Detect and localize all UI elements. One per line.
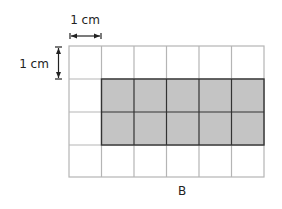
horizontal-scale-marker: [70, 33, 101, 39]
horizontal-scale-label: 1 cm: [70, 13, 100, 27]
vertical-scale-label: 1 cm: [19, 57, 49, 71]
figure-label: B: [178, 184, 186, 198]
vertical-scale-marker: [55, 47, 62, 79]
shaded-region: [102, 79, 265, 145]
grid-diagram: 1 cm 1 cm B: [0, 0, 282, 209]
